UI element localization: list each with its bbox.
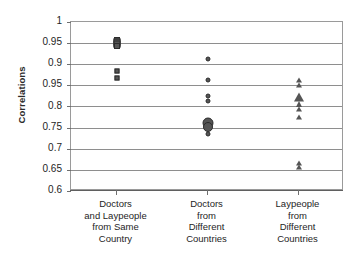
x-axis-category-label: Doctorsand Laypeoplefrom SameCountry [70,198,161,244]
x-axis-category-labels: Doctorsand Laypeoplefrom SameCountryDoct… [70,198,343,250]
category-label-line: Country [70,233,161,245]
data-point-triangle [296,164,302,169]
data-point-circle [203,122,213,132]
y-axis-tick-label: 0.65 [43,164,62,174]
data-point-triangle [296,115,302,120]
category-label-line: from [161,210,252,222]
y-axis-tick-label: 0.95 [43,37,62,47]
gridline [71,170,342,171]
category-label-line: from Same [70,221,161,233]
category-label-line: Laypeople [252,198,343,210]
y-axis-tick-label: 0.7 [48,143,62,153]
category-label-line: Countries [161,233,252,245]
y-axis-tick-labels: 10.950.90.950.80.750.70.650.6 [22,21,66,190]
category-label-line: Different [161,221,252,233]
y-axis-tick-mark [67,85,71,86]
y-axis-tick-mark [67,191,71,192]
scatter-chart: Correlations 10.950.90.950.80.750.70.650… [0,0,362,256]
data-point-circle [205,99,210,104]
y-axis-tick-mark [67,64,71,65]
y-axis-tick-label: 0.95 [43,79,62,89]
gridline [71,43,342,44]
y-axis-tick-mark [67,149,71,150]
gridline [71,64,342,65]
x-axis-category-label: DoctorsfromDifferentCountries [161,198,252,244]
data-point-square [114,43,120,49]
y-axis-tick-mark [67,170,71,171]
data-point-circle [205,57,210,62]
data-point-triangle [294,93,304,102]
plot-area [70,21,343,190]
category-label-line: Countries [252,233,343,245]
x-axis-tick-mark [207,190,208,195]
data-point-circle [205,93,210,98]
y-axis-tick-label: 0.75 [43,122,62,132]
x-axis-tick-mark [116,190,117,195]
data-point-square [114,75,119,80]
y-axis-tick-mark [67,106,71,107]
gridline [71,149,342,150]
y-axis-tick-label: 0.6 [48,185,62,195]
y-axis-tick-label: 0.9 [48,58,62,68]
y-axis-tick-mark [67,43,71,44]
category-label-line: from [252,210,343,222]
data-point-circle [205,131,210,136]
category-label-line: Doctors [161,198,252,210]
x-axis-line [70,190,343,191]
data-point-triangle [296,106,302,111]
data-point-circle [205,78,210,83]
category-label-line: Doctors [70,198,161,210]
y-axis-tick-label: 0.8 [48,101,62,111]
category-label-line: and Laypeople [70,210,161,222]
x-axis-category-label: LaypeoplefromDifferentCountries [252,198,343,244]
y-axis-tick-mark [67,128,71,129]
data-point-square [114,68,119,73]
data-point-triangle [296,83,302,88]
y-axis-tick-mark [67,22,71,23]
category-label-line: Different [252,221,343,233]
x-axis-tick-mark [298,190,299,195]
y-axis-tick-label: 1 [56,16,62,26]
